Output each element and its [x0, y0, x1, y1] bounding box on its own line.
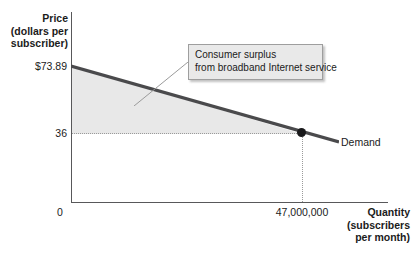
chart-canvas: Price (dollars per subscriber) $73.89 36… [0, 0, 412, 254]
x-axis-title-line1: Quantity [330, 206, 410, 219]
y-axis-title-line1: Price [0, 12, 68, 25]
x-axis-title-line3: per month) [330, 231, 410, 244]
y-tick-label-36: 36 [0, 127, 67, 139]
y-axis-title: Price (dollars per subscriber) [0, 12, 68, 50]
origin-label: 0 [50, 206, 70, 218]
x-axis-title-line2: (subscribers [330, 219, 410, 232]
x-axis-title: Quantity (subscribers per month) [330, 206, 410, 244]
price-guide-line [72, 133, 303, 134]
x-axis-line [71, 202, 388, 203]
demand-curve-label: Demand [341, 136, 381, 148]
y-axis-line [71, 12, 72, 203]
consumer-surplus-callout: Consumer surplus from broadband Internet… [188, 44, 323, 80]
callout-line1: Consumer surplus [195, 49, 316, 62]
y-tick-label-73-89: $73.89 [0, 60, 67, 72]
equilibrium-point-marker [297, 128, 306, 137]
quantity-guide-line [302, 134, 303, 202]
y-axis-title-line3: subscriber) [0, 37, 68, 50]
y-axis-title-line2: (dollars per [0, 25, 68, 38]
callout-line2: from broadband Internet service [195, 62, 316, 75]
